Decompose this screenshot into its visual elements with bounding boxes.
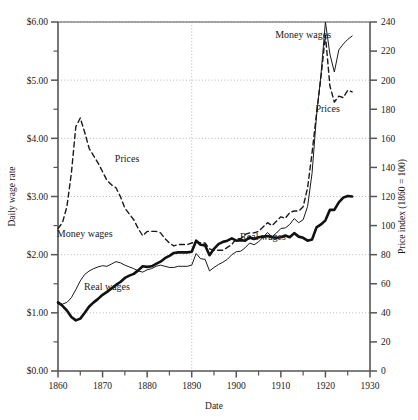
y-axis-tick-label: $2.00 <box>27 250 49 260</box>
y-axis-tick-label: $4.00 <box>27 134 49 144</box>
y2-axis-tick-label: 60 <box>381 279 391 289</box>
real-wages-label-right: Real wages <box>240 231 286 242</box>
x-axis-tick-label: 1930 <box>361 381 380 391</box>
series-annotations: Money wagesPricesPricesMoney wagesReal w… <box>57 29 340 292</box>
real-wages-label-left: Real wages <box>84 281 130 292</box>
y-axis-tick-label: $1.00 <box>27 308 49 318</box>
y-axis-title: Daily wage rate <box>7 166 17 226</box>
y2-axis-tick-label: 40 <box>381 308 391 318</box>
y2-axis-tick-label: 200 <box>381 76 396 86</box>
data-series <box>58 22 352 320</box>
y2-axis-tick-label: 140 <box>381 163 396 173</box>
series-line-prices <box>58 35 352 250</box>
y2-axis-tick-label: 240 <box>381 17 396 27</box>
series-line-real-wages <box>58 196 352 320</box>
x-axis-tick-label: 1910 <box>271 381 290 391</box>
prices-label-left: Prices <box>115 153 140 164</box>
y2-axis-tick-label: 80 <box>381 250 391 260</box>
plot-frame <box>58 22 370 371</box>
chart-container: $0.00$1.00$2.00$3.00$4.00$5.00$6.0002040… <box>0 0 418 420</box>
gridlines <box>58 22 370 371</box>
y2-axis-title: Price index (1860 = 100) <box>397 159 408 254</box>
y-axis-tick-label: $0.00 <box>27 366 49 376</box>
y-axis-tick-label: $3.00 <box>27 192 49 202</box>
y2-axis-tick-label: 20 <box>381 337 391 347</box>
x-axis-tick-label: 1880 <box>138 381 157 391</box>
y2-axis-tick-label: 0 <box>381 366 386 376</box>
y2-axis-tick-label: 220 <box>381 46 396 56</box>
wage-price-line-chart: $0.00$1.00$2.00$3.00$4.00$5.00$6.0002040… <box>0 0 418 420</box>
axis-ticks <box>51 22 377 378</box>
y2-axis-tick-label: 100 <box>381 221 396 231</box>
series-line-money-wages <box>58 22 352 304</box>
x-axis-title: Date <box>205 401 223 411</box>
x-axis-tick-label: 1900 <box>227 381 246 391</box>
y-axis-tick-label: $6.00 <box>27 17 49 27</box>
y2-axis-tick-label: 120 <box>381 192 396 202</box>
money-wages-label-lower: Money wages <box>57 228 113 239</box>
prices-label-right: Prices <box>315 103 340 114</box>
x-axis-tick-label: 1860 <box>49 381 68 391</box>
x-axis-tick-label: 1870 <box>93 381 112 391</box>
y-axis-tick-label: $5.00 <box>27 76 49 86</box>
x-axis-tick-label: 1920 <box>316 381 335 391</box>
axis-tick-labels: $0.00$1.00$2.00$3.00$4.00$5.00$6.0002040… <box>27 17 396 391</box>
y2-axis-tick-label: 160 <box>381 134 396 144</box>
money-wages-label-upper: Money wages <box>275 29 331 40</box>
x-axis-tick-label: 1890 <box>182 381 201 391</box>
y2-axis-tick-label: 180 <box>381 105 396 115</box>
